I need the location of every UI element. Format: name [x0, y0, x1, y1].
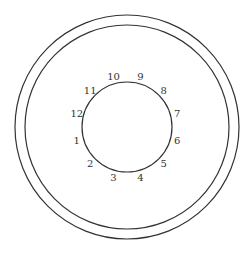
segment-label: 3 [110, 172, 116, 183]
segment-label: 11 [84, 85, 97, 96]
segment-label: 10 [107, 71, 120, 82]
segment-label: 7 [174, 108, 180, 119]
segment-label: 8 [161, 85, 167, 96]
segment-label: 1 [74, 135, 80, 146]
segment-label: 12 [70, 108, 83, 119]
segment-label: 5 [161, 158, 167, 169]
rings-group [15, 15, 239, 239]
segment-label: 9 [137, 71, 143, 82]
segment-label: 4 [137, 172, 143, 183]
circular-segment-diagram: 123456789101112 [0, 0, 252, 254]
segment-label: 2 [87, 158, 93, 169]
segment-label: 6 [174, 135, 180, 146]
